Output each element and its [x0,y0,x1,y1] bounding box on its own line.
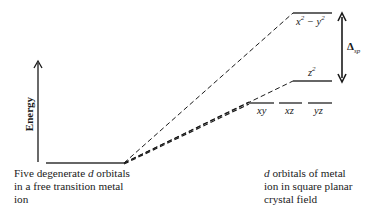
splitting-double-arrow [338,13,346,82]
splitting-label: Δsp [347,40,360,55]
caption-line-2: ion in square planar [264,180,353,193]
label-yz: yz [314,105,323,116]
square-planar-caption: d orbitals of metal ion in square planar… [264,167,353,206]
label-xz: xz [285,105,294,116]
dashed-line-xy-a [124,102,249,163]
label-z2: z2 [308,65,316,78]
caption-line-1: Five degenerate d orbitals [14,167,130,180]
energy-axis-arrow [34,61,42,162]
energy-axis-label: Energy [23,94,35,134]
dashed-line-xy-b [124,104,249,164]
label-x2-y2: x2 − y2 [296,14,325,27]
dashed-line-x2-y2 [124,13,293,163]
caption-line-3: crystal field [264,193,353,206]
caption-line-3: ion [14,193,130,206]
caption-line-2: in a free transition metal [14,180,130,193]
free-ion-caption: Five degenerate d orbitals in a free tra… [14,167,130,206]
crystal-field-diagram: Energy x2 − y2 z2 xy xz yz Δsp Five dege… [0,0,379,218]
correlation-lines [124,13,293,164]
caption-line-1: d orbitals of metal [264,167,353,180]
label-xy: xy [257,105,266,116]
